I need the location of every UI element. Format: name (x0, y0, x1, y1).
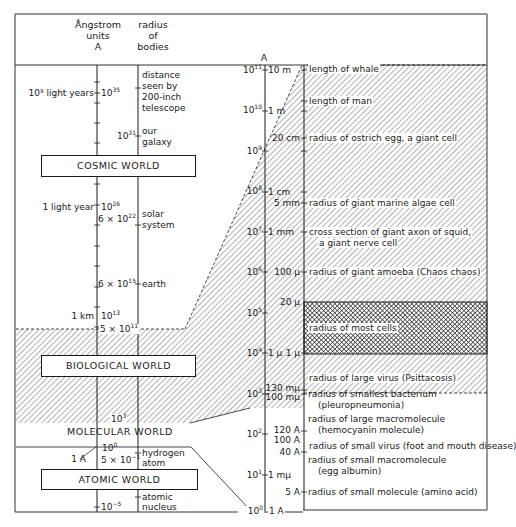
desc-large-virus: radius of large virus (Psittacosis) (308, 373, 457, 383)
value-5e11: 5 × 1011 (99, 324, 139, 334)
desc-large-macromolecule: radius of large macromolecule (308, 414, 445, 424)
desc-squid-axon: cross section of giant axon of squid, (308, 227, 472, 237)
desc-ostrich-egg: radius of ostrich egg, a giant cell (308, 133, 458, 143)
label-one-light-year: 1 light year (20, 202, 94, 212)
header-angstrom-line3: A (70, 41, 126, 52)
label-billion-light-years: 10⁹ light years (20, 88, 94, 98)
unit-10m: 10 m (268, 65, 291, 75)
size-5A: 5 A (262, 487, 300, 497)
size-5mm: 5 mm (262, 198, 300, 208)
label-telescope: distanceseen by200-inchtelescope (142, 70, 186, 114)
desc-small-macromolecule: radius of small macromolecule (308, 455, 446, 465)
desc-smallest-bacterium: radius of smallest bacterium (308, 389, 437, 399)
desc-pleuropneumonia: (pleuropneumonia) (318, 400, 404, 410)
value-1e3-left: 103 (110, 414, 127, 424)
value-1e0-left: 100 (102, 443, 117, 453)
size-20micron: 20 μ (262, 297, 300, 307)
label-galaxy: ourgalaxy (142, 126, 172, 148)
unit-1A: 1 A (268, 506, 285, 516)
desc-marine-algae: radius of giant marine algae cell (308, 198, 456, 208)
power-4: 104 (234, 348, 262, 358)
size-100A: 100 A (262, 435, 300, 445)
size-100mmu: 100 mμ (262, 392, 300, 402)
power-3: 103 (234, 389, 262, 399)
desc-hemocyanin: (hemocyanin molecule) (318, 425, 424, 435)
label-one-km: 1 km (40, 311, 94, 321)
value-1e31: 1031 (100, 131, 136, 141)
label-earth: earth (142, 279, 166, 289)
desc-giant-nerve-cell: a giant nerve cell (318, 238, 398, 248)
header-angstrom-line2: units (70, 30, 126, 41)
power-5: 105 (234, 308, 262, 318)
size-20cm: 20 cm (262, 133, 300, 143)
power-8: 108 (234, 186, 262, 196)
label-solar-system: solarsystem (142, 209, 175, 231)
unit-1cm: 1 cm (268, 187, 290, 197)
value-1e-5: 10−5 (101, 502, 121, 512)
header-right-unit: A (256, 52, 272, 63)
desc-most-cells: radius of most cells (308, 323, 398, 333)
power-11: 1011 (234, 65, 262, 75)
header-radius-line2: of (128, 30, 178, 41)
power-1: 101 (234, 470, 262, 480)
label-atomic-nucleus: atomicnucleus (142, 492, 177, 512)
power-0: 100 (238, 506, 264, 516)
value-1e35: 1035 (101, 88, 120, 98)
value-6e22: 6 × 1022 (96, 214, 136, 224)
unit-1m: 1 m (268, 106, 285, 116)
label-one-angstrom: 1 A (60, 454, 86, 464)
desc-egg-albumin: (egg albumin) (318, 466, 381, 476)
header-angstrom-line1: Ångstrom (70, 19, 126, 30)
power-2: 102 (234, 429, 262, 439)
power-10: 1010 (234, 105, 262, 115)
header-radius-line3: bodies (128, 41, 178, 52)
size-100micron: 100 μ (262, 267, 300, 277)
header-radius-of-bodies: radius of bodies (128, 19, 178, 52)
unit-1millimicron: 1 mμ (268, 470, 291, 480)
size-120A: 120 A (262, 425, 300, 435)
atomic-world-label: ATOMIC WORLD (41, 469, 198, 490)
biological-world-label: BIOLOGICAL WORLD (41, 355, 196, 377)
value-1e26: 1026 (101, 202, 120, 212)
power-7: 107 (234, 227, 262, 237)
label-hydrogen-atom: hydrogenatom (142, 448, 185, 468)
value-1e13: 1013 (101, 311, 120, 321)
unit-1mm: 1 mm (268, 227, 294, 237)
desc-whale: length of whale (308, 64, 380, 74)
desc-small-molecule: radius of small molecule (amino acid) (308, 487, 477, 497)
value-5e-1: 5 × 10−1 (101, 455, 140, 465)
value-6e15: 6 × 1015 (96, 279, 136, 289)
desc-man: length of man (308, 96, 373, 106)
power-6: 106 (234, 267, 262, 277)
power-9: 109 (234, 146, 262, 156)
molecular-world-label: MOLECULAR WORLD (40, 426, 200, 440)
cosmic-world-label: COSMIC WORLD (41, 155, 196, 177)
header-angstrom-units: Ångstrom units A (70, 19, 126, 52)
desc-giant-amoeba: radius of giant amoeba (Chaos chaos) (308, 267, 481, 277)
size-1micron: 1 μ (280, 348, 300, 358)
desc-small-virus: radius of small virus (foot and mouth di… (309, 441, 516, 451)
size-40A: 40 A (262, 447, 300, 457)
header-radius-line1: radius (128, 19, 178, 30)
